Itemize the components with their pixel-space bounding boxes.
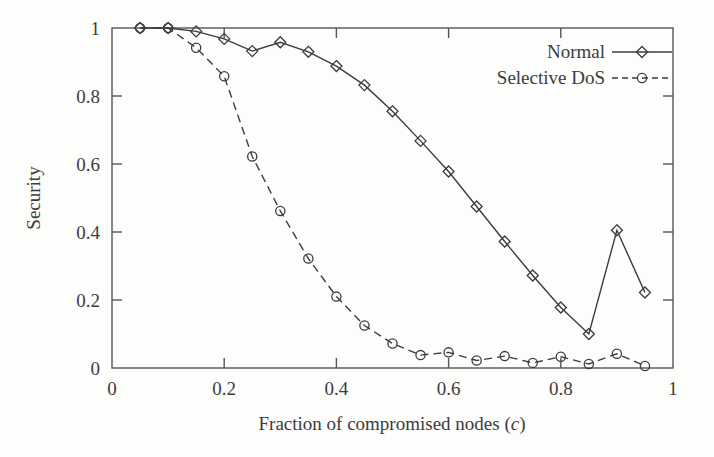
legend-entry-selective-dos: Selective DoS bbox=[497, 67, 672, 88]
y-tick-label: 0.6 bbox=[76, 154, 100, 175]
figure-container: 00.20.40.60.81 00.20.40.60.81 Fraction o… bbox=[0, 0, 714, 457]
y-axis-title: Security bbox=[23, 166, 44, 230]
data-point-marker bbox=[220, 72, 229, 81]
y-tick-label: 1 bbox=[91, 18, 101, 39]
y-tick-label: 0.8 bbox=[76, 86, 100, 107]
y-axis-tick-labels: 00.20.40.60.81 bbox=[76, 18, 100, 379]
x-axis-title: Fraction of compromised nodes (c) bbox=[259, 413, 526, 435]
x-tick-label: 1 bbox=[668, 378, 678, 399]
data-point-marker bbox=[388, 339, 397, 348]
x-tick-label: 0.6 bbox=[437, 378, 461, 399]
x-tick-label: 0.2 bbox=[212, 378, 236, 399]
y-tick-label: 0 bbox=[91, 358, 101, 379]
data-point-marker bbox=[192, 43, 201, 52]
x-tick-label: 0.4 bbox=[325, 378, 349, 399]
x-tick-label: 0 bbox=[107, 378, 117, 399]
data-point-marker bbox=[640, 361, 649, 370]
x-tick-label: 0.8 bbox=[549, 378, 573, 399]
y-axis-ticks bbox=[112, 96, 673, 300]
legend-label: Selective DoS bbox=[497, 67, 605, 88]
legend-label: Normal bbox=[547, 41, 605, 62]
chart-legend: NormalSelective DoS bbox=[497, 41, 672, 88]
x-axis-tick-labels: 00.20.40.60.81 bbox=[107, 378, 678, 399]
y-tick-label: 0.4 bbox=[76, 222, 100, 243]
y-tick-label: 0.2 bbox=[76, 290, 100, 311]
legend-entry-normal: Normal bbox=[547, 41, 672, 62]
chart-canvas: 00.20.40.60.81 00.20.40.60.81 Fraction o… bbox=[0, 0, 714, 457]
